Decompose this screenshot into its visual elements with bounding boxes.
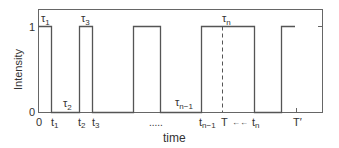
tau-n-label: τn — [222, 12, 231, 27]
y-tick-0: 0 — [29, 106, 35, 118]
x-tick-t3: t3 — [92, 116, 100, 130]
x-tick-T: T — [221, 116, 228, 128]
arrow-T-from-tn: ←← — [232, 118, 248, 127]
x-tick-tprime: T′ — [293, 116, 302, 128]
signal-trace — [39, 27, 296, 113]
tau1-label: τ1 — [41, 12, 50, 27]
x-tick-0: 0 — [36, 116, 42, 128]
x-tick-tn: tn — [252, 116, 260, 130]
x-axis-label: time — [163, 131, 186, 145]
x-tick-t2: t2 — [78, 116, 86, 130]
tau3-label: τ3 — [81, 12, 90, 27]
x-ellipsis: ..... — [149, 117, 163, 128]
x-tick-tn-1: tn−1 — [199, 116, 216, 130]
tau-n-minus-1-label: τn−1 — [175, 96, 193, 111]
intensity-time-diagram: 1 0 Intensity τ1 τ2 τ3 τn−1 τn 0 t1 t2 t… — [0, 0, 339, 148]
plot-frame — [39, 10, 323, 113]
y-tick-1: 1 — [29, 21, 35, 33]
tau2-label: τ2 — [63, 97, 72, 112]
y-axis-label: Intensity — [12, 49, 24, 90]
x-tick-t1: t1 — [51, 116, 59, 130]
diagram-canvas: 1 0 Intensity τ1 τ2 τ3 τn−1 τn 0 t1 t2 t… — [0, 0, 339, 148]
